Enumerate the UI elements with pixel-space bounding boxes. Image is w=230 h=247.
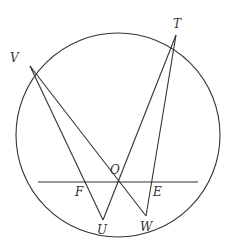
- label-V: V: [10, 51, 20, 65]
- label-U: U: [97, 223, 108, 237]
- label-T: T: [173, 17, 182, 31]
- segment-VW: [30, 66, 146, 216]
- segments: [30, 35, 198, 220]
- segment-TU: [103, 35, 176, 220]
- label-W: W: [140, 220, 154, 234]
- circle: [16, 33, 220, 237]
- segment-VU: [30, 66, 103, 220]
- label-E: E: [152, 185, 162, 199]
- geometry-diagram: V T O F E U W: [0, 0, 230, 247]
- diagram-svg: V T O F E U W: [0, 0, 230, 247]
- label-O: O: [110, 163, 120, 177]
- label-F: F: [74, 185, 84, 199]
